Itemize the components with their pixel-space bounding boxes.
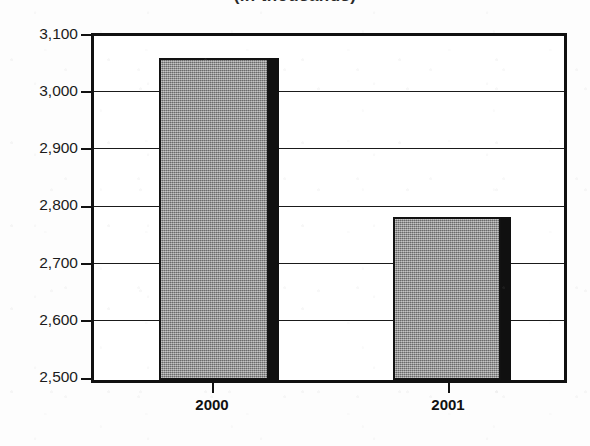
y-axis-tick-label: 2,500 — [6, 369, 78, 385]
y-axis-label-group: 3,100 3,000 2,900 2,800 2,700 2,600 2,50… — [0, 0, 78, 446]
y-axis-tick-label: 2,800 — [6, 197, 78, 213]
y-axis-tick-label: 3,000 — [6, 83, 78, 99]
x-axis-tick-mark — [448, 380, 450, 393]
y-axis-tick-label: 2,700 — [6, 255, 78, 271]
y-axis-tick-label: 2,600 — [6, 312, 78, 328]
y-axis-tick-mark — [81, 263, 92, 265]
y-axis-tick-mark — [81, 378, 92, 380]
bar-2001[interactable] — [393, 217, 511, 380]
bar-fill-2001 — [393, 217, 501, 380]
y-axis-tick-mark — [81, 206, 92, 208]
y-axis-tick-label: 2,900 — [6, 140, 78, 156]
plot-area — [91, 33, 567, 383]
x-axis-label-2000: 2000 — [167, 396, 257, 413]
bar-2000[interactable] — [159, 58, 279, 380]
bar-fill-2000 — [159, 58, 269, 380]
y-axis-tick-label: 3,100 — [6, 26, 78, 42]
chart-title: (in thousands) — [0, 0, 590, 6]
y-axis-tick-mark — [81, 34, 92, 36]
y-axis-tick-mark — [81, 91, 92, 93]
x-axis-tick-mark — [212, 380, 214, 393]
y-axis-tick-mark — [81, 320, 92, 322]
y-axis-tick-mark — [81, 148, 92, 150]
x-axis-label-2001: 2001 — [403, 396, 493, 413]
